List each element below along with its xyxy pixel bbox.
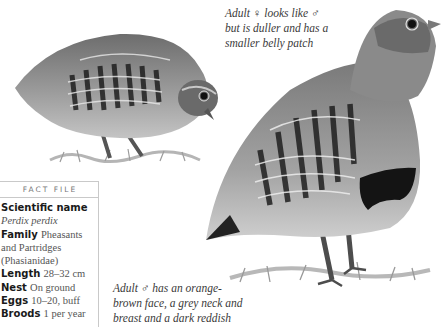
fact-file-box: FACT FILE Scientific name Perdix perdix …: [0, 181, 99, 327]
fact-value: 28–32 cm: [44, 268, 86, 279]
fact-value: Perdix perdix: [1, 215, 58, 226]
fact-label: Eggs: [1, 295, 28, 306]
fact-label: Scientific name: [1, 202, 88, 213]
fact-family: Family Pheasants and Partridges (Phasian…: [1, 228, 98, 268]
fact-value: 10–20, buff: [31, 295, 80, 306]
fact-value: On ground: [30, 282, 75, 293]
fact-length: Length 28–32 cm: [1, 267, 98, 280]
fact-label: Length: [1, 268, 40, 279]
female-caption-line: Adult ♀ looks like ♂: [225, 6, 328, 21]
fact-eggs: Eggs 10–20, buff: [1, 294, 98, 307]
male-caption: Adult ♂ has an orange- brown face, a gre…: [113, 281, 242, 326]
fact-broods: Broods 1 per year: [1, 307, 98, 320]
fact-value: 1 per year: [44, 308, 86, 319]
female-partridge-illustration: [10, 20, 220, 170]
female-caption-line: smaller belly patch: [225, 36, 328, 51]
female-caption: Adult ♀ looks like ♂ but is duller and h…: [225, 6, 328, 51]
fact-file-body: Scientific name Perdix perdix Family Phe…: [0, 198, 98, 321]
male-caption-line: breast and a dark reddish: [113, 311, 242, 326]
male-caption-line: brown face, a grey neck and: [113, 296, 242, 311]
fact-label: Nest: [1, 282, 27, 293]
fact-label: Broods: [1, 308, 40, 319]
fact-label: Family: [1, 229, 38, 240]
fact-scientific-name: Scientific name Perdix perdix: [1, 201, 98, 228]
fact-file-title: FACT FILE: [0, 182, 98, 198]
female-caption-line: but is duller and has a: [225, 21, 328, 36]
male-caption-line: Adult ♂ has an orange-: [113, 281, 242, 296]
fact-nest: Nest On ground: [1, 281, 98, 294]
